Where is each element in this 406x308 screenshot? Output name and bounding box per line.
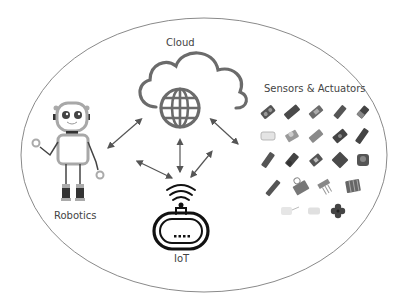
sensor-module — [308, 129, 323, 143]
actuator-module — [281, 207, 299, 215]
sensor-module — [265, 179, 280, 196]
wifi-router-icon — [154, 185, 208, 249]
sensor-module — [333, 105, 347, 120]
cloud-label: Cloud — [166, 37, 195, 48]
robot-icon — [33, 103, 104, 201]
sensor-module — [317, 179, 334, 196]
sensor-module — [284, 104, 301, 120]
sensor-module — [260, 104, 276, 119]
sensor-module — [285, 152, 299, 167]
actuator-module — [308, 208, 320, 215]
arrow-robotics-iot — [141, 163, 172, 178]
sensor-module — [332, 152, 349, 169]
sensor-module — [356, 105, 369, 119]
sensor-modules-icon — [260, 104, 369, 218]
robotics-label: Robotics — [54, 210, 97, 221]
cloud-globe-icon — [140, 53, 246, 127]
sensor-module — [332, 128, 348, 143]
arrow-cloud-sensors — [214, 122, 238, 144]
arrow-cloud-robotics — [108, 122, 138, 148]
sensor-module — [289, 175, 309, 196]
sensor-module — [309, 153, 323, 167]
fan-icon — [331, 204, 345, 218]
sensors-label: Sensors & Actuators — [264, 83, 366, 94]
sensor-module — [345, 179, 361, 193]
sensor-module — [357, 154, 369, 166]
sensor-module — [261, 152, 275, 169]
sensor-module — [355, 128, 369, 145]
sensor-module — [285, 129, 300, 142]
iot-label: IoT — [174, 253, 189, 264]
diagram-canvas: Cloud Robotics Sensors & Actuators IoT — [0, 0, 406, 308]
arrow-sensors-iot — [191, 155, 209, 177]
sensor-module — [261, 132, 275, 140]
sensor-module — [308, 105, 323, 119]
